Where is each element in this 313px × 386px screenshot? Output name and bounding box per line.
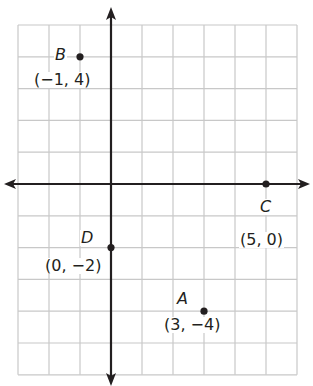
point-a (200, 308, 207, 315)
point-d (107, 244, 114, 251)
point-c-coords-label: (5, 0) (239, 232, 284, 248)
point-a-coords-label: (3, −4) (163, 317, 221, 333)
point-a-name-label: A (176, 291, 189, 307)
coordinate-plane (0, 0, 313, 386)
point-b (76, 53, 83, 60)
point-b-coords-label: (−1, 4) (33, 72, 91, 88)
point-b-name-label: B (54, 47, 67, 63)
point-c (262, 180, 269, 187)
point-d-coords-label: (0, −2) (44, 258, 102, 274)
point-d-name-label: D (80, 230, 94, 246)
point-c-name-label: C (259, 199, 272, 215)
